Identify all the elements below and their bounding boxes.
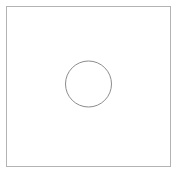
shape-diagram-canvas: [0, 0, 177, 172]
canvas-background: [0, 0, 177, 172]
diagram-svg: [0, 0, 177, 172]
